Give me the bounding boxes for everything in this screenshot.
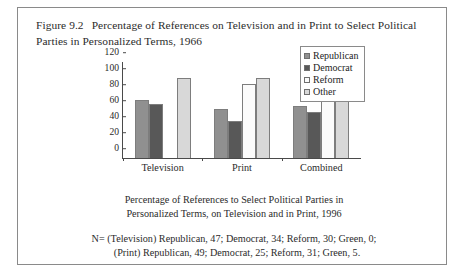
y-axis-tick: 120: [105, 48, 123, 58]
bar-democrat-print: [228, 121, 242, 158]
legend-label: Democrat: [313, 63, 352, 73]
legend-item-republican[interactable]: Republican: [304, 50, 359, 62]
x-axis-tick: [123, 158, 124, 161]
figure-frame: Figure 9.2Percentage of References on Te…: [17, 7, 447, 265]
y-axis-tick: 60: [109, 96, 123, 106]
x-axis-label-combined: Combined: [300, 162, 342, 173]
legend-label: Other: [313, 87, 336, 97]
caption-line-2: Personalized Terms, on Television and in…: [36, 207, 432, 221]
sample-size-note: N= (Television) Republican, 47; Democrat…: [36, 232, 432, 259]
bar-democrat-combined: [307, 112, 321, 158]
legend-item-reform[interactable]: Reform: [304, 74, 359, 86]
note-line-1: N= (Television) Republican, 47; Democrat…: [36, 232, 432, 246]
legend-item-other[interactable]: Other: [304, 86, 359, 98]
x-axis-tick: [202, 158, 203, 161]
legend-swatch-icon: [304, 65, 310, 71]
legend-swatch-icon: [304, 77, 310, 83]
chart-caption: Percentage of References to Select Polit…: [36, 193, 432, 220]
y-axis-tick: 40: [109, 112, 123, 122]
bar-group: [123, 62, 202, 158]
bar-other-television: [177, 78, 191, 158]
bar-republican-television: [135, 100, 149, 158]
bar-group: [202, 62, 281, 158]
bar-other-print: [256, 78, 270, 158]
y-axis-tick: 0: [114, 144, 123, 154]
bar-reform-print: [242, 84, 256, 158]
y-axis-tick: 80: [109, 80, 123, 90]
legend-item-democrat[interactable]: Democrat: [304, 62, 359, 74]
x-axis-label-print: Print: [232, 162, 252, 173]
legend-label: Reform: [313, 75, 344, 85]
x-axis-label-television: Television: [142, 162, 184, 173]
y-axis-tick: 20: [109, 128, 123, 138]
caption-line-1: Percentage of References to Select Polit…: [36, 193, 432, 207]
chart-legend: RepublicanDemocratReformOther: [300, 46, 365, 102]
legend-swatch-icon: [304, 53, 310, 59]
bar-republican-print: [214, 109, 228, 158]
bar-republican-combined: [293, 106, 307, 158]
note-line-2: (Print) Republican, 49; Democrat, 25; Re…: [36, 246, 432, 260]
bar-democrat-television: [149, 104, 163, 158]
figure-title: Figure 9.2Percentage of References on Te…: [36, 18, 432, 49]
y-axis-tick: 100: [105, 64, 123, 74]
x-axis-tick: [282, 158, 283, 161]
figure-number: Figure 9.2: [36, 19, 84, 31]
figure-title-text: Percentage of References on Television a…: [36, 19, 416, 47]
legend-swatch-icon: [304, 89, 310, 95]
chart: 020406080100120 TelevisionPrintCombined: [88, 54, 438, 172]
legend-label: Republican: [313, 51, 359, 61]
